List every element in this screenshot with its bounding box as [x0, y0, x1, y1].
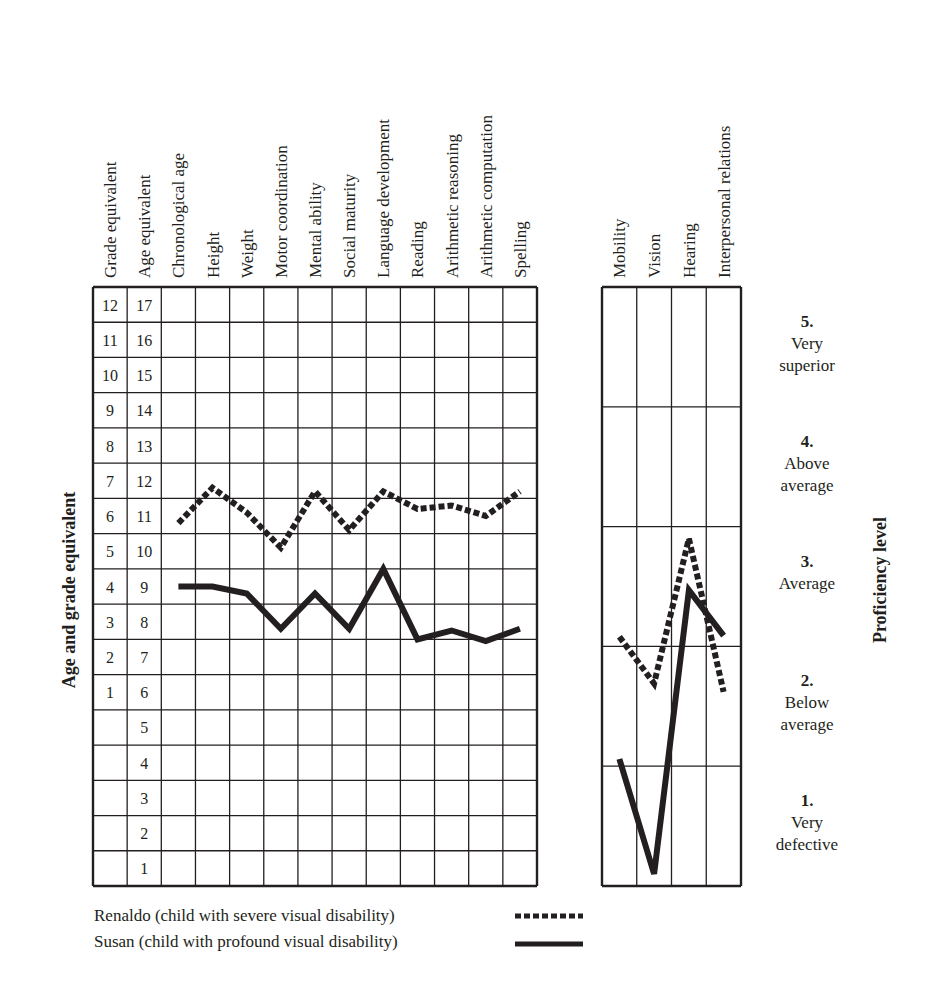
legend-label-renaldo: Renaldo (child with severe visual disabi… [94, 906, 395, 925]
proficiency-level-labels: 5.Verysuperior4.Aboveaverage3.Average2.B… [776, 312, 838, 854]
level-name-line1: Below [785, 693, 830, 712]
age-equivalent-tick: 15 [136, 367, 152, 384]
level-name-line1: Above [784, 454, 829, 473]
column-header-motor-coordination: Motor coordination [272, 145, 291, 278]
age-equivalent-tick: 4 [140, 755, 148, 772]
column-header-arithmetic-reasoning: Arithmetic reasoning [443, 134, 462, 278]
grade-equivalent-tick: 9 [106, 402, 114, 419]
column-header-vision: Vision [645, 233, 664, 278]
right-column-headers: MobilityVisionHearingInterpersonal relat… [610, 126, 733, 278]
column-header-grade-equivalent: Grade equivalent [101, 161, 120, 278]
age-equivalent-tick: 2 [140, 825, 148, 842]
column-header-height: Height [204, 231, 223, 278]
age-equivalent-tick: 8 [140, 614, 148, 631]
grade-equivalent-tick: 1 [106, 684, 114, 701]
y-axis-title-age-grade: Age and grade equivalent [59, 492, 79, 689]
grade-equivalent-tick: 5 [106, 543, 114, 560]
column-header-mobility: Mobility [610, 218, 629, 278]
proficiency-level-5-very-superior: 5.Verysuperior [779, 312, 835, 375]
age-equivalent-tick: 10 [136, 543, 152, 560]
proficiency-level-2-below-average: 2.Belowaverage [781, 671, 834, 734]
legend-item-susan: Susan (child with profound visual disabi… [94, 932, 583, 951]
proficiency-level-1-very-defective: 1.Verydefective [776, 791, 838, 854]
column-header-chronological-age: Chronological age [169, 153, 188, 278]
level-name-line1: Very [791, 334, 824, 353]
level-name-line2: average [781, 715, 834, 734]
age-equivalent-tick: 12 [136, 473, 152, 490]
age-equivalent-tick: 3 [140, 790, 148, 807]
proficiency-level-4-above-average: 4.Aboveaverage [781, 432, 834, 495]
column-header-arithmetic-computation: Arithmetic computation [477, 115, 496, 278]
age-equivalent-tick: 9 [140, 579, 148, 596]
age-equivalent-tick: 17 [136, 297, 152, 314]
level-number: 5. [801, 312, 814, 331]
grade-equivalent-tick: 12 [102, 297, 118, 314]
grade-equivalent-tick: 3 [106, 614, 114, 631]
column-header-hearing: Hearing [680, 223, 699, 278]
level-name-line2: average [781, 476, 834, 495]
age-equivalent-tick: 5 [140, 719, 148, 736]
column-header-age-equivalent: Age equivalent [135, 174, 154, 278]
legend-item-renaldo: Renaldo (child with severe visual disabi… [94, 906, 583, 925]
y-axis-title-proficiency: Proficiency level [870, 517, 890, 643]
age-equivalent-tick: 7 [140, 649, 148, 666]
level-number: 1. [801, 791, 814, 810]
left-column-headers: Grade equivalentAge equivalentChronologi… [101, 115, 530, 278]
column-header-reading: Reading [408, 221, 427, 278]
age-equivalent-tick: 16 [136, 332, 152, 349]
grade-equivalent-tick: 11 [102, 332, 117, 349]
legend-label-susan: Susan (child with profound visual disabi… [94, 932, 398, 951]
level-name-line2: superior [779, 356, 835, 375]
column-header-language-development: Language development [374, 119, 393, 278]
grade-equivalent-tick: 6 [106, 508, 114, 525]
level-number: 3. [801, 552, 814, 571]
column-header-weight: Weight [238, 229, 257, 278]
level-name-line1: Very [791, 813, 824, 832]
developmental-profile-chart: Grade equivalentAge equivalentChronologi… [0, 0, 941, 995]
grade-equivalent-tick: 7 [106, 473, 114, 490]
level-number: 4. [801, 432, 814, 451]
age-equivalent-tick: 1 [140, 860, 148, 877]
proficiency-level-3-average: 3.Average [779, 552, 835, 593]
legend: Renaldo (child with severe visual disabi… [94, 906, 583, 951]
age-grade-grid [93, 287, 537, 886]
age-equivalent-tick: 11 [137, 508, 152, 525]
grade-equivalent-tick: 4 [106, 579, 114, 596]
grade-equivalent-tick: 2 [106, 649, 114, 666]
column-header-social-maturity: Social maturity [340, 173, 359, 278]
column-header-spelling: Spelling [511, 221, 530, 278]
level-number: 2. [801, 671, 814, 690]
level-name-line2: defective [776, 835, 838, 854]
column-header-interpersonal-relations: Interpersonal relations [715, 126, 734, 278]
column-header-mental-ability: Mental ability [306, 182, 325, 278]
grade-equivalent-tick: 8 [106, 438, 114, 455]
age-equivalent-tick: 6 [140, 684, 148, 701]
age-equivalent-tick: 14 [136, 402, 152, 419]
grade-equivalent-tick: 10 [102, 367, 118, 384]
proficiency-grid [602, 287, 741, 886]
level-name-line1: Average [779, 574, 835, 593]
age-equivalent-tick: 13 [136, 438, 152, 455]
